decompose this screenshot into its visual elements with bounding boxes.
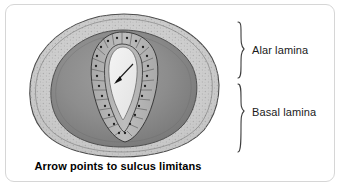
figure-card: Alar lamina Basal lamina Arrow points to…	[0, 0, 342, 188]
label-alar-lamina: Alar lamina	[252, 44, 308, 56]
brace-alar	[238, 22, 244, 78]
figure-caption: Arrow points to sulcus limitans	[0, 160, 236, 172]
label-basal-lamina: Basal lamina	[252, 106, 316, 118]
brace-basal	[238, 84, 244, 152]
